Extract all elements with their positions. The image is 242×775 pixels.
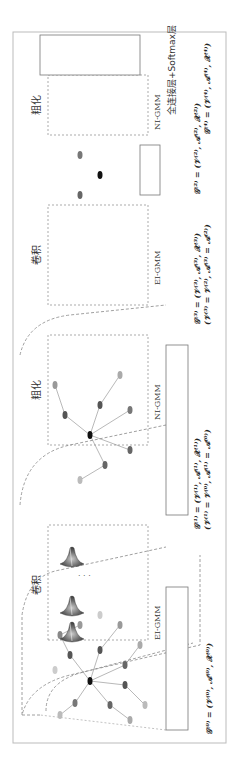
conv1-box: 卷积 · · · EI-GMM	[30, 525, 162, 642]
pool1-label: 粗化	[30, 380, 42, 400]
conv1-label: 卷积	[30, 575, 42, 595]
formula-g4: 𝒢⁽⁴⁾ = (𝒱⁽⁴⁾, 𝒜⁽⁴⁾, 𝒳⁽⁴⁾)	[202, 43, 212, 135]
pool2-label: 粗化	[30, 95, 42, 115]
graph4-and-fc: 𝒢⁽⁴⁾ = (𝒱⁽⁴⁾, 𝒜⁽⁴⁾, 𝒳⁽⁴⁾) 全连接层+Softmax层	[40, 25, 212, 135]
formula-g0: 𝒢⁽⁰⁾ = (𝒱⁽⁰⁾, 𝒜⁽⁰⁾, 𝒳⁽⁰⁾)	[204, 643, 214, 735]
diagram-canvas: 𝒢⁽⁰⁾ = (𝒱⁽⁰⁾, 𝒜⁽⁰⁾, 𝒳⁽⁰⁾) 卷积 · · · EI-GM…	[0, 0, 242, 775]
pool2-box: 粗化 NI-GMM	[30, 75, 162, 135]
pool2-sublabel: NI-GMM	[153, 94, 162, 130]
formula-g3: 𝒢⁽³⁾ = (𝒱⁽³⁾, 𝒜⁽³⁾, 𝒳⁽³⁾)	[192, 233, 202, 325]
graph1-slab: 𝒢⁽¹⁾ = (𝒱⁽¹⁾, 𝒜⁽¹⁾, 𝒳⁽¹⁾) (𝒱⁽¹⁾ = 𝒱⁽⁰⁾, …	[20, 305, 212, 530]
svg-text:· · ·: · · ·	[78, 571, 91, 580]
input-graph-slab: 𝒢⁽⁰⁾ = (𝒱⁽⁰⁾, 𝒜⁽⁰⁾, 𝒳⁽⁰⁾)	[22, 547, 214, 735]
pool1-box: 粗化 NI-GMM	[30, 335, 162, 445]
conv2-label: 卷积	[30, 245, 42, 265]
gmm-kernel-icon	[60, 596, 84, 616]
conv2-box: 卷积 EI-GMM	[30, 205, 162, 305]
formula-g3-constraint: (𝒱⁽³⁾ = 𝒱⁽²⁾, 𝒜⁽³⁾ = 𝒜⁽²⁾)	[202, 224, 212, 325]
pool1-sublabel: NI-GMM	[153, 384, 162, 420]
conv2-sublabel: EI-GMM	[153, 251, 162, 285]
graph2-slab: 𝒢⁽²⁾ = (𝒱⁽²⁾, 𝒜⁽²⁾, 𝒳⁽²⁾) 𝒢⁽³⁾ = (𝒱⁽³⁾, …	[78, 103, 213, 325]
formula-g2: 𝒢⁽²⁾ = (𝒱⁽²⁾, 𝒜⁽²⁾, 𝒳⁽²⁾)	[192, 103, 202, 195]
formula-g1-constraint: (𝒱⁽¹⁾ = 𝒱⁽⁰⁾, 𝒜⁽¹⁾ = 𝒜⁽⁰⁾)	[202, 429, 212, 530]
gmm-kernel-icon	[60, 547, 84, 567]
formula-g1: 𝒢⁽¹⁾ = (𝒱⁽¹⁾, 𝒜⁽¹⁾, 𝒳⁽¹⁾)	[192, 438, 202, 530]
gmm-graph-cnn-diagram: 𝒢⁽⁰⁾ = (𝒱⁽⁰⁾, 𝒜⁽⁰⁾, 𝒳⁽⁰⁾) 卷积 · · · EI-GM…	[0, 0, 242, 775]
conv1-sublabel: EI-GMM	[153, 606, 162, 640]
fc-softmax-label: 全连接层+Softmax层	[166, 25, 177, 115]
